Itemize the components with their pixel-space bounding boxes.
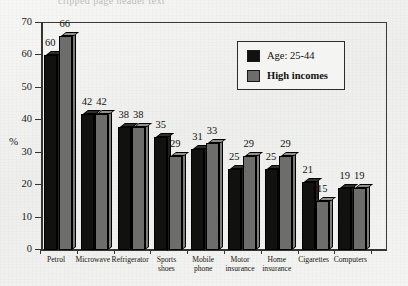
bar-value-label: 35 xyxy=(155,120,166,131)
bar xyxy=(118,127,131,250)
x-tick-mark xyxy=(371,249,372,254)
bar xyxy=(44,55,57,250)
legend-swatch-age xyxy=(247,50,260,62)
bar xyxy=(59,36,72,250)
bar-value-label: 38 xyxy=(133,110,144,121)
bar-value-label: 60 xyxy=(45,38,56,49)
bar xyxy=(228,169,241,250)
legend-swatch-high-incomes xyxy=(247,70,260,82)
bar-front-face xyxy=(154,137,167,251)
bar xyxy=(169,156,182,250)
bar-front-face xyxy=(118,127,131,250)
legend-label-age: Age: 25-44 xyxy=(267,50,315,62)
y-tick-label: 20 xyxy=(6,179,32,190)
x-category-label: Cigarettes xyxy=(296,256,332,265)
bar xyxy=(206,143,219,250)
bar xyxy=(81,114,94,250)
x-tick-mark xyxy=(224,249,225,254)
x-category-label: Home insurance xyxy=(259,256,295,273)
bar xyxy=(191,149,204,250)
y-tick-label: 40 xyxy=(6,114,32,125)
y-tick-label: 50 xyxy=(6,82,32,93)
x-category-label: Mobile phone xyxy=(185,256,221,273)
bar-side-face xyxy=(366,185,370,250)
y-axis-title: % xyxy=(9,135,18,147)
bar-value-label: 38 xyxy=(119,110,130,121)
bar-value-label: 25 xyxy=(229,152,240,163)
bar-value-label: 42 xyxy=(96,97,107,108)
x-tick-mark xyxy=(334,249,335,254)
bar xyxy=(338,188,351,250)
bar-front-face xyxy=(265,169,278,250)
bar xyxy=(316,201,329,250)
y-tick-label: 30 xyxy=(6,147,32,158)
bar-side-face xyxy=(108,110,112,250)
y-tick-label: 0 xyxy=(6,244,32,255)
bar-value-label: 19 xyxy=(354,171,365,182)
x-category-label: Computers xyxy=(332,256,368,265)
bar-side-face xyxy=(292,153,296,250)
bar-front-face xyxy=(302,182,315,250)
x-tick-mark xyxy=(298,249,299,254)
bar-side-face xyxy=(329,198,333,250)
bar-front-face xyxy=(81,114,94,250)
cropped-header-text: clipped page header text xyxy=(58,0,165,6)
x-tick-mark xyxy=(77,249,78,254)
chart-legend: Age: 25-44 High incomes xyxy=(237,41,345,90)
bar-front-face xyxy=(279,156,292,250)
bar xyxy=(302,182,315,250)
bar-front-face xyxy=(95,114,108,250)
x-tick-mark xyxy=(40,249,41,254)
x-category-label: Petrol xyxy=(38,256,74,265)
bar-front-face xyxy=(59,36,72,250)
bar xyxy=(265,169,278,250)
bar-side-face xyxy=(256,153,260,250)
bar-value-label: 29 xyxy=(244,139,255,150)
x-tick-mark xyxy=(261,249,262,254)
bar xyxy=(132,127,145,250)
bar xyxy=(154,137,167,251)
bar xyxy=(279,156,292,250)
x-category-label: Motor insurance xyxy=(222,256,258,273)
x-tick-mark xyxy=(187,249,188,254)
x-tick-mark xyxy=(114,249,115,254)
bar-value-label: 42 xyxy=(82,97,93,108)
bar-front-face xyxy=(132,127,145,250)
bar-value-label: 15 xyxy=(317,184,328,195)
x-category-label: Refrigerator xyxy=(112,256,148,265)
bar xyxy=(353,188,366,250)
bar-side-face xyxy=(182,153,186,250)
bar-front-face xyxy=(243,156,256,250)
bar-value-label: 33 xyxy=(207,126,218,137)
legend-label-high-incomes: High incomes xyxy=(267,70,328,82)
bar-front-face xyxy=(316,201,329,250)
y-tick-label: 10 xyxy=(6,212,32,223)
bar-value-label: 31 xyxy=(192,132,203,143)
cropped-page-header: clipped page header text xyxy=(0,0,408,9)
bar-value-label: 29 xyxy=(170,139,181,150)
bar-value-label: 21 xyxy=(303,165,314,176)
bar-front-face xyxy=(191,149,204,250)
bar-side-face xyxy=(145,123,149,250)
bar-value-label: 29 xyxy=(280,139,291,150)
bar-front-face xyxy=(338,188,351,250)
bar xyxy=(243,156,256,250)
bar xyxy=(95,114,108,250)
y-tick-label: 70 xyxy=(6,17,32,28)
x-category-label: Sports shoes xyxy=(148,256,184,273)
bar-front-face xyxy=(206,143,219,250)
chart-screenshot: clipped page header text 010203040506070… xyxy=(0,0,408,286)
x-tick-mark xyxy=(150,249,151,254)
bar-side-face xyxy=(219,140,223,250)
x-category-label: Microwave xyxy=(75,256,111,265)
bar-value-label: 25 xyxy=(266,152,277,163)
bar-side-face xyxy=(72,33,76,250)
bar-front-face xyxy=(169,156,182,250)
bar-front-face xyxy=(44,55,57,250)
y-tick-label: 60 xyxy=(6,49,32,60)
bar-value-label: 19 xyxy=(339,171,350,182)
bar-front-face xyxy=(228,169,241,250)
bar-front-face xyxy=(353,188,366,250)
bar-value-label: 66 xyxy=(60,19,71,30)
